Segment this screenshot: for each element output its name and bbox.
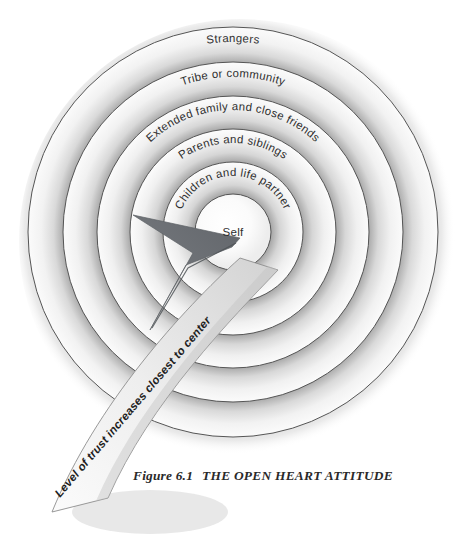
ring-label-self: Self xyxy=(222,225,244,238)
concentric-rings-diagram: Level of trust increases closest to cent… xyxy=(0,0,465,545)
figure-caption-number: Figure 6.1 xyxy=(133,468,193,483)
figure-caption: Figure 6.1THE OPEN HEART ATTITUDE xyxy=(133,468,433,484)
figure-open-heart-attitude: Level of trust increases closest to cent… xyxy=(0,0,465,545)
figure-caption-title: THE OPEN HEART ATTITUDE xyxy=(202,468,393,483)
